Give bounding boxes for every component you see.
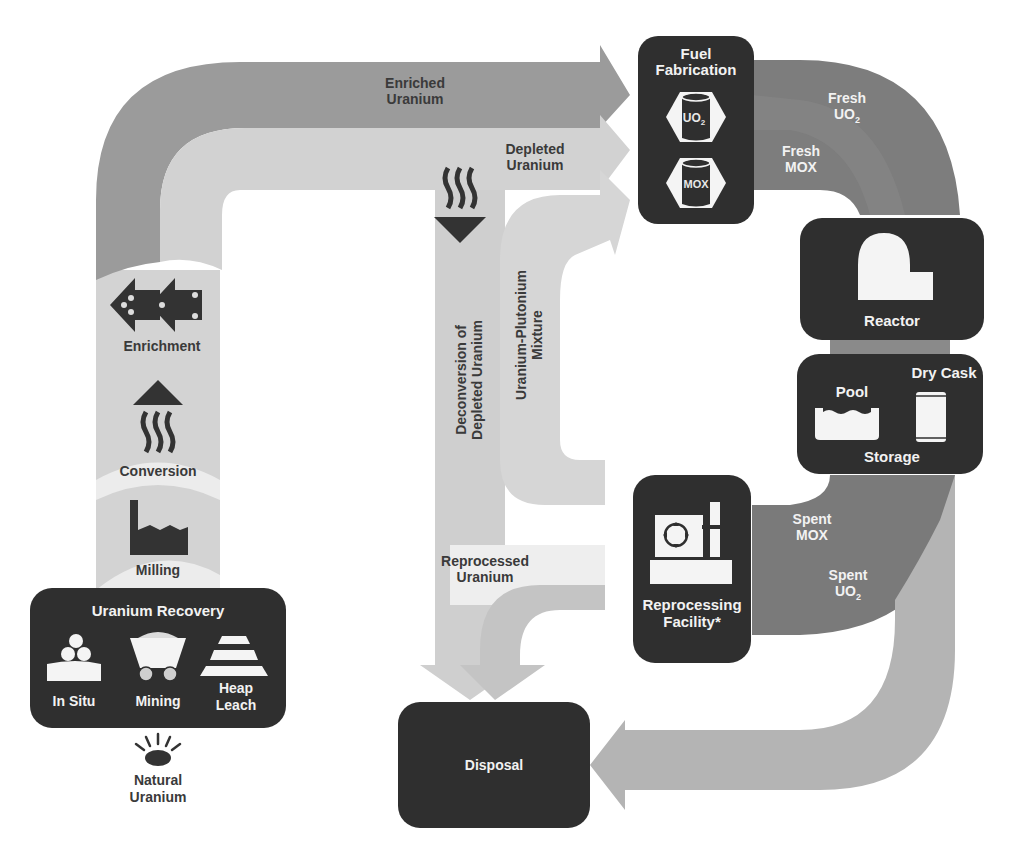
- svg-text:MOX: MOX: [796, 527, 829, 543]
- enrichment-label: Enrichment: [123, 338, 200, 354]
- fuel-fab-title-line2: Fabrication: [656, 61, 737, 78]
- storage-node[interactable]: Dry Cask Pool Storage: [797, 354, 983, 474]
- storage-label: Storage: [864, 448, 920, 465]
- heap-label: Heap: [219, 680, 253, 696]
- mining-label: Mining: [135, 693, 180, 709]
- uranium-label: Uranium: [130, 789, 187, 805]
- leach-label: Leach: [216, 697, 256, 713]
- reprocessing-node[interactable]: Reprocessing Facility*: [633, 475, 751, 663]
- svg-text:Mixture: Mixture: [529, 310, 545, 360]
- in-situ-label: In Situ: [53, 693, 96, 709]
- reprocessing-title-line2: Facility*: [663, 613, 721, 630]
- svg-text:Uranium: Uranium: [457, 569, 514, 585]
- svg-text:Uranium-Plutonium: Uranium-Plutonium: [513, 270, 529, 400]
- svg-text:Deconversion of: Deconversion of: [453, 325, 469, 435]
- fuel-fabrication-node[interactable]: Fuel Fabrication UO2 MOX: [638, 36, 754, 224]
- svg-text:Spent: Spent: [793, 511, 832, 527]
- reprocessing-title-line1: Reprocessing: [642, 596, 741, 613]
- fuel-fab-title-line1: Fuel: [681, 45, 712, 62]
- uranium-recovery-node[interactable]: Uranium Recovery In Situ Mining Heap Lea…: [30, 588, 286, 728]
- uranium-recovery-title: Uranium Recovery: [92, 602, 225, 619]
- reactor-node[interactable]: Reactor: [800, 218, 984, 340]
- dry-cask-label: Dry Cask: [911, 364, 977, 381]
- deconversion-label: Deconversion of Depleted Uranium: [453, 320, 485, 440]
- ore-rock-icon: [136, 734, 180, 766]
- fresh-mox-label: Fresh MOX: [782, 143, 820, 175]
- reactor-storage-connector: [830, 338, 950, 354]
- reactor-label: Reactor: [864, 312, 920, 329]
- milling-label: Milling: [136, 562, 180, 578]
- natural-uranium-stage: Natural Uranium: [130, 734, 187, 805]
- svg-text:MOX: MOX: [785, 159, 818, 175]
- conversion-label: Conversion: [119, 463, 196, 479]
- natural-label: Natural: [134, 772, 182, 788]
- svg-text:Uranium: Uranium: [507, 157, 564, 173]
- mox-label: MOX: [683, 178, 709, 190]
- disposal-node[interactable]: Disposal: [398, 702, 590, 828]
- svg-text:Fresh: Fresh: [828, 90, 866, 106]
- svg-text:Fresh: Fresh: [782, 143, 820, 159]
- svg-text:Depleted: Depleted: [505, 141, 564, 157]
- dry-cask-icon: [916, 392, 946, 442]
- svg-text:Enriched: Enriched: [385, 75, 445, 91]
- svg-text:Depleted Uranium: Depleted Uranium: [469, 320, 485, 440]
- svg-text:Reprocessed: Reprocessed: [441, 553, 529, 569]
- pool-label: Pool: [836, 383, 869, 400]
- spent-mox-label: Spent MOX: [793, 511, 832, 543]
- depleted-uranium-label: Depleted Uranium: [505, 141, 564, 173]
- svg-text:Spent: Spent: [829, 567, 868, 583]
- fuel-cycle-diagram: Uranium Recovery In Situ Mining Heap Lea…: [0, 0, 1014, 857]
- enriched-uranium-label: Enriched Uranium: [385, 75, 445, 107]
- svg-text:Uranium: Uranium: [387, 91, 444, 107]
- disposal-label: Disposal: [465, 757, 523, 773]
